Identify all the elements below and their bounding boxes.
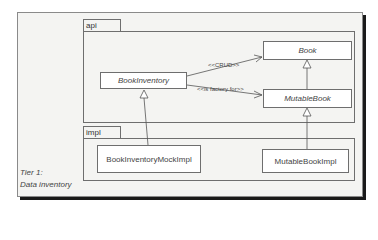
class-book: Book — [263, 41, 352, 60]
relation-label-factory: <<is factory for>> — [197, 86, 244, 92]
caption-title: Data inventory — [20, 180, 72, 189]
realization-arrowhead — [303, 108, 311, 116]
class-book-inventory-mock-impl: BookInventoryMockImpl — [97, 145, 201, 173]
relation-label-crud: <<CRUD>> — [208, 62, 240, 68]
generalization-arrowhead — [303, 60, 311, 68]
realization-arrowhead — [140, 90, 148, 98]
class-book-inventory: BookInventory — [100, 72, 187, 89]
class-mutable-book-impl: MutableBookImpl — [262, 149, 349, 173]
class-mutable-book: MutableBook — [263, 89, 352, 108]
caption-tier: Tier 1: — [20, 168, 43, 177]
